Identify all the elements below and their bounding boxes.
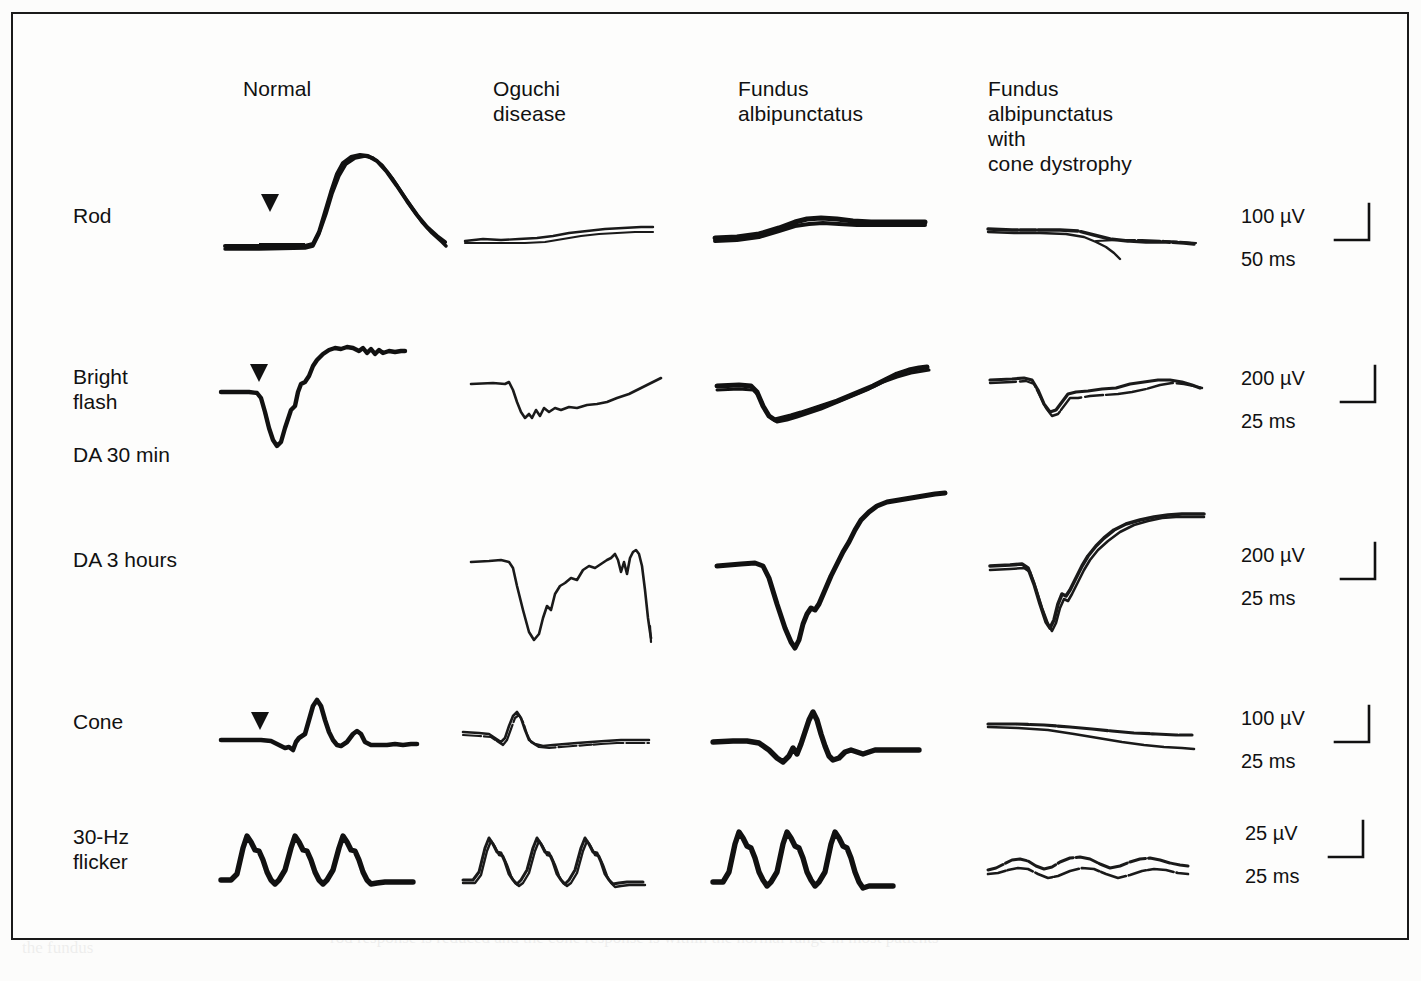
- trace-flicker-fundus-albipunctatus-cone-dystrophy: [978, 824, 1228, 904]
- row-label-rod: Rod: [73, 203, 112, 228]
- trace-cone-normal: [205, 676, 455, 776]
- scale-bar-rod-time: 50 ms: [1241, 249, 1295, 269]
- trace-da-3-hours-fundus-albipunctatus: [707, 484, 967, 664]
- scale-bar-da-3-hours-time: 25 ms: [1241, 588, 1295, 608]
- figure-frame: Normal Oguchi disease Fundus albipunctat…: [11, 12, 1409, 940]
- trace-rod-fundus-albipunctatus-cone-dystrophy: [978, 189, 1218, 279]
- column-header-fundus-albipunctatus-cone-dystrophy: Fundus albipunctatus with cone dystrophy: [988, 76, 1218, 176]
- trace-rod-normal: [205, 136, 455, 266]
- trace-rod-fundus-albipunctatus: [703, 184, 943, 264]
- trace-bright-flash-normal: [205, 336, 455, 466]
- column-header-normal: Normal: [243, 76, 433, 101]
- trace-bright-flash-fundus-albipunctatus-cone-dystrophy: [978, 350, 1228, 460]
- scale-bar-rod-voltage: 100 µV: [1241, 206, 1305, 226]
- scale-bar-da-3-hours-voltage: 200 µV: [1241, 545, 1305, 565]
- scale-bar-cone-time: 25 ms: [1241, 751, 1295, 771]
- trace-rod-oguchi: [453, 189, 673, 259]
- trace-da-3-hours-fundus-albipunctatus-cone-dystrophy: [978, 504, 1228, 664]
- row-label-flicker: 30-Hz flicker: [73, 824, 129, 874]
- trace-flicker-fundus-albipunctatus: [703, 800, 953, 905]
- scale-bar-flicker-time: 25 ms: [1245, 866, 1299, 886]
- column-header-oguchi-disease: Oguchi disease: [493, 76, 693, 126]
- trace-da-3-hours-oguchi: [461, 514, 691, 664]
- scale-bar-bright-flash-voltage: 200 µV: [1241, 368, 1305, 388]
- row-label-da-3-hours: DA 3 hours: [73, 547, 177, 572]
- scale-bar-flicker-voltage: 25 µV: [1245, 823, 1298, 843]
- row-label-bright-flash: Bright flash: [73, 364, 128, 414]
- row-label-da-30-min: DA 30 min: [73, 442, 170, 467]
- trace-cone-oguchi: [453, 684, 683, 784]
- trace-cone-fundus-albipunctatus: [703, 680, 953, 790]
- row-label-cone: Cone: [73, 709, 123, 734]
- scale-bar-cone-voltage: 100 µV: [1241, 708, 1305, 728]
- trace-flicker-normal: [205, 804, 455, 904]
- trace-bright-flash-oguchi: [461, 352, 691, 462]
- trace-bright-flash-fundus-albipunctatus: [707, 344, 957, 464]
- column-header-fundus-albipunctatus: Fundus albipunctatus: [738, 76, 958, 126]
- scale-bar-bright-flash-time: 25 ms: [1241, 411, 1295, 431]
- trace-flicker-oguchi: [453, 806, 683, 906]
- trace-cone-fundus-albipunctatus-cone-dystrophy: [978, 694, 1228, 784]
